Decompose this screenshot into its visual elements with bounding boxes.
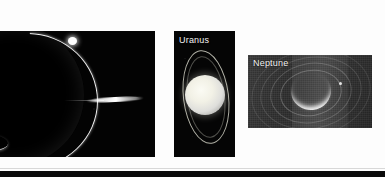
uranus-ring-image: Uranus <box>174 31 235 157</box>
uranus-planet-disc <box>185 75 225 115</box>
neptune-panel-label: Neptune <box>253 58 288 68</box>
jupiter-ring-image <box>0 31 155 157</box>
bottom-dark-band <box>0 171 385 177</box>
neptune-ring-image: Neptune <box>248 55 372 128</box>
uranus-panel-label: Uranus <box>179 35 209 45</box>
slide-canvas: Uranus Neptune <box>0 0 385 177</box>
ring-bright-knot <box>68 37 77 45</box>
neptune-moon-point <box>339 82 342 85</box>
bottom-divider-rule <box>0 168 385 169</box>
